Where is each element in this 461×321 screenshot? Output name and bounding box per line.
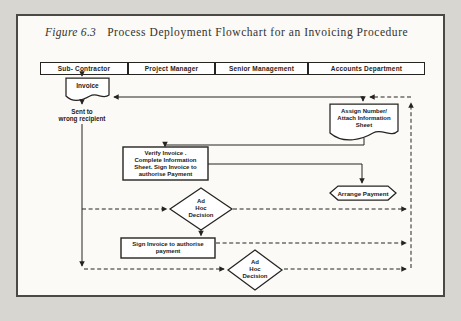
assign-number-document-shape	[330, 104, 398, 140]
verify-invoice-box	[123, 147, 208, 180]
flowchart-canvas	[0, 0, 461, 321]
arrow-verify-to-arrange-payment	[208, 164, 362, 183]
arrange-payment-hexagon	[330, 186, 396, 200]
ad-hoc-decision-1-diamond	[170, 188, 232, 230]
ad-hoc-decision-2-diamond	[228, 250, 282, 290]
book-page: Figure 6.3Process Deployment Flowchart f…	[0, 0, 461, 321]
sign-invoice-box	[121, 238, 215, 258]
shapes	[66, 78, 398, 290]
invoice-document-shape	[66, 78, 109, 100]
arrow-assign-to-verify	[165, 138, 364, 147]
